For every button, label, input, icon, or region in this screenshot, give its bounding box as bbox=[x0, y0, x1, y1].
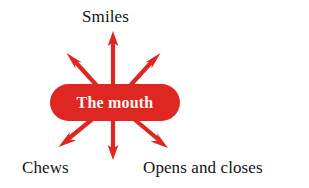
center-node-capsule[interactable]: The mouth bbox=[50, 84, 180, 121]
branch-label-opens-and-closes: Opens and closes bbox=[143, 159, 263, 176]
center-node-label: The mouth bbox=[77, 95, 154, 111]
branch-label-chews: Chews bbox=[22, 159, 69, 176]
diagram-canvas: .arw { stroke: #DE2722; stroke-width: 4.… bbox=[0, 0, 309, 188]
branch-label-smiles: Smiles bbox=[82, 8, 129, 25]
